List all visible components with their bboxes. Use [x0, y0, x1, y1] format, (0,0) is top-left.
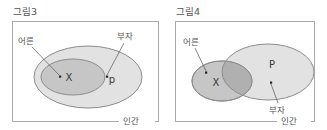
figure-canvas: 그림3 X p 어른 부자 인간 — [0, 0, 327, 130]
panel-fig4: 그림4 X — [176, 6, 315, 126]
universe-label-fig3: 인간 — [123, 116, 139, 126]
element-point-x-fig3 — [59, 76, 61, 78]
panel-fig3: 그림3 X p 어른 부자 인간 — [13, 6, 159, 126]
set-label-eoreun-fig4: 어른 — [183, 37, 199, 47]
set-label-buja-fig4: 부자 — [269, 105, 285, 115]
venn-diagram-figure: 그림3 X p 어른 부자 인간 — [0, 0, 327, 130]
element-label-p-fig3: p — [109, 74, 115, 85]
set-label-buja-fig3: 부자 — [117, 31, 133, 41]
panel-title-fig3: 그림3 — [13, 6, 37, 17]
panel-title-fig4: 그림4 — [176, 6, 200, 17]
element-point-p-fig4 — [270, 82, 272, 84]
universe-label-fig4: 인간 — [281, 116, 297, 126]
element-label-x-fig4: X — [213, 77, 220, 88]
set-ellipse-eoreun-fig3 — [41, 59, 105, 95]
element-label-p-fig4: P — [269, 59, 275, 70]
set-label-eoreun-fig3: 어른 — [18, 36, 34, 46]
element-point-x-fig4 — [205, 72, 207, 74]
element-label-x-fig3: X — [66, 72, 73, 83]
